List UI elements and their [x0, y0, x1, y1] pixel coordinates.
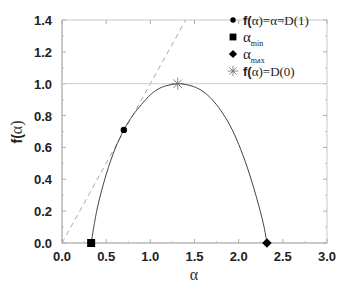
y-tick-label: 1.2	[34, 45, 52, 60]
y-tick-label: 0.8	[34, 109, 52, 124]
y-tick-label: 0.4	[34, 172, 53, 187]
star-marker-icon	[228, 66, 238, 76]
spectrum-curve	[91, 84, 267, 243]
y-tick-label: 0.2	[34, 204, 52, 219]
x-tick-label: 1.5	[185, 249, 203, 264]
data-markers	[87, 78, 272, 248]
legend: f(α)=α=D(1)αminαmaxf(α)=D(0)	[228, 13, 309, 79]
y-tick-label: 1.0	[34, 77, 52, 92]
y-tick-label: 0.0	[34, 236, 52, 251]
circle-marker-icon	[230, 17, 235, 22]
x-tick-label: 2.0	[230, 249, 248, 264]
x-tick-label: 0.5	[97, 249, 115, 264]
plot-border	[62, 20, 327, 243]
chart: 0.00.51.01.52.02.53.00.00.20.40.60.81.01…	[0, 0, 351, 295]
x-axis-label: α	[190, 266, 199, 283]
square-marker-icon	[87, 239, 95, 247]
x-tick-label: 1.0	[141, 249, 159, 264]
star-marker-icon	[172, 78, 184, 90]
diamond-marker-icon	[229, 50, 237, 58]
square-marker-icon	[230, 34, 237, 41]
x-tick-label: 0.0	[53, 249, 71, 264]
tick-labels: 0.00.51.01.52.02.53.00.00.20.40.60.81.01…	[34, 13, 336, 264]
axis-ticks	[62, 20, 327, 243]
y-tick-label: 0.6	[34, 140, 52, 155]
legend-entry-label: f(α)=D(0)	[243, 64, 295, 79]
y-axis-label: f(α)	[8, 120, 26, 143]
x-tick-label: 2.5	[274, 249, 292, 264]
circle-marker-icon	[121, 127, 127, 133]
y-tick-label: 1.4	[34, 13, 53, 28]
f-alpha-curve	[91, 84, 267, 243]
reference-lines	[62, 20, 327, 243]
legend-entry-label: αmax	[243, 46, 265, 65]
x-tick-label: 3.0	[318, 249, 336, 264]
plot-frame	[62, 20, 327, 243]
diamond-marker-icon	[262, 238, 272, 248]
y-axis-label-text: f(α)	[8, 120, 26, 143]
legend-entry-label: f(α)=α=D(1)	[243, 13, 309, 28]
